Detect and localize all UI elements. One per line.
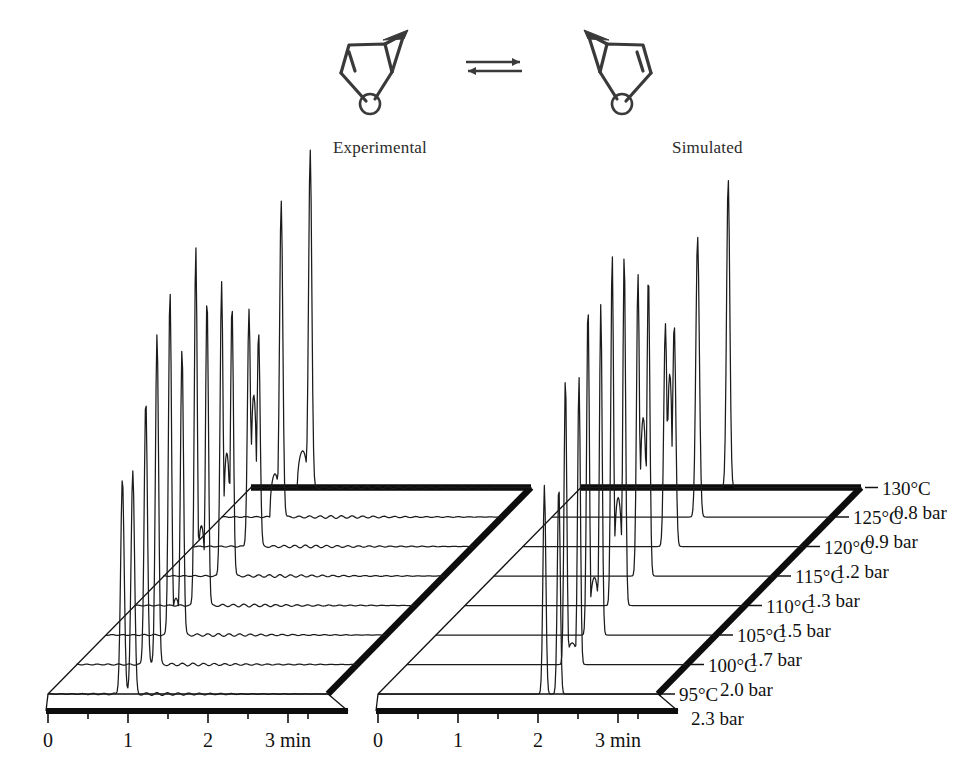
condition-pressure: 2.3 bar [691, 708, 744, 729]
x-tick-label-experimental-0: 0 [43, 729, 53, 751]
x-tick-label-simulated-2: 2 [533, 729, 543, 751]
condition-pressure: 1.7 bar [749, 649, 802, 670]
x-axis-experimental: 0123 min [43, 711, 311, 751]
x-tick-label-simulated-0: 0 [373, 729, 383, 751]
condition-pressure: 1.3 bar [807, 590, 860, 611]
condition-pressure: 0.9 bar [865, 531, 918, 552]
x-tick-label-experimental-1: 1 [123, 729, 133, 751]
chromatogram-trace [465, 257, 745, 606]
chromatogram-trace [222, 201, 502, 518]
chromatogram-trace [552, 237, 832, 517]
chromatogram-trace [494, 275, 774, 576]
condition-pressure: 2.0 bar [720, 679, 773, 700]
stacked-chromatogram-plot: 0123 min0123 min95°C2.3 bar100°C2.0 bar1… [0, 0, 975, 777]
x-axis-simulated: 0123 min [373, 711, 641, 751]
x-tick-label-simulated-1: 1 [453, 729, 463, 751]
chromatogram-trace [77, 335, 357, 666]
chromatogram-trace [251, 150, 531, 489]
x-tick-label-experimental-3: 3 min [265, 729, 311, 751]
condition-pressure: 1.2 bar [836, 561, 889, 582]
dynamic-chromatography-figure: Experimental Simulated 0123 min0123 min9… [0, 0, 975, 777]
condition-pressure: 1.5 bar [778, 620, 831, 641]
x-tick-label-experimental-2: 2 [203, 729, 213, 751]
chromatogram-trace [135, 248, 415, 607]
chromatogram-trace [48, 471, 328, 695]
condition-temperature: 130°C [882, 478, 931, 499]
condition-temperature: 95°C [679, 684, 718, 705]
x-tick-label-simulated-3: 3 min [595, 729, 641, 751]
condition-pressure: 0.8 bar [894, 502, 947, 523]
